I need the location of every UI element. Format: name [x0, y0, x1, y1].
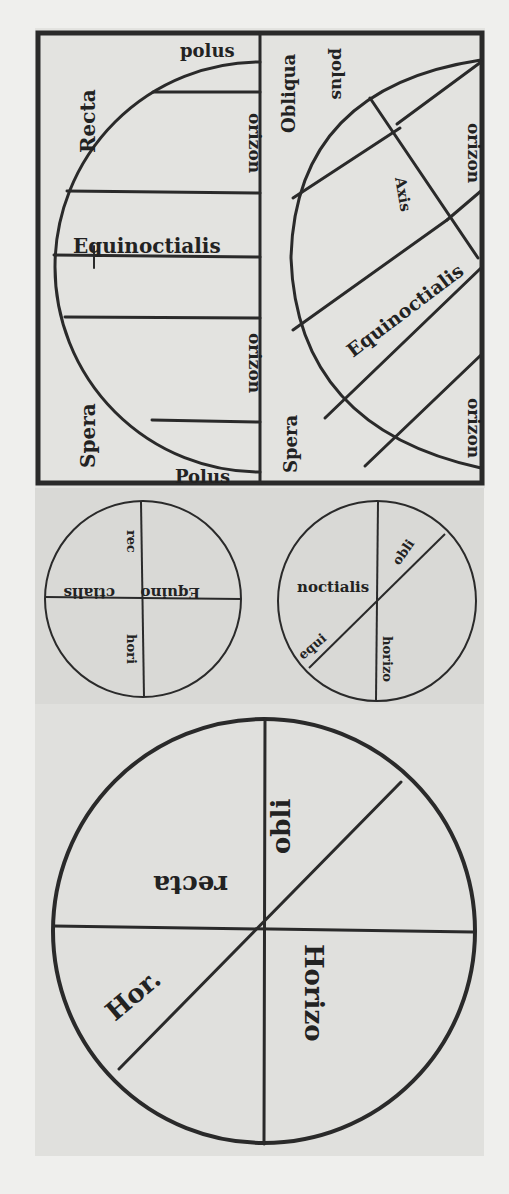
label-noctialis: noctialis	[297, 578, 369, 596]
label-horizo-large: Horizo	[299, 944, 329, 1042]
label-axis: Axis	[391, 175, 415, 213]
label-orizon-upper-left: orizon	[245, 113, 265, 173]
label-polus-bottom: Polus	[175, 466, 230, 487]
label-polus-top: polus	[180, 40, 235, 61]
label-orizon-lower-right: orizon	[464, 398, 484, 458]
sphere-diagrams-panel: Recta Spera polus Polus orizon orizon Eq…	[35, 28, 485, 488]
label-equino: Equino	[141, 584, 200, 602]
sphere-diagrams-drawing: Recta Spera polus Polus orizon orizon Eq…	[35, 28, 485, 488]
small-circles-drawing: Equino ctialis rec hori noctialis obli e…	[35, 488, 484, 704]
label-spera-left: Spera	[76, 403, 100, 468]
label-spera-right: Spera	[280, 414, 301, 473]
label-rec: rec	[124, 530, 139, 553]
label-hori: hori	[124, 634, 139, 664]
label-hor-large: Hor.	[100, 964, 167, 1027]
scanned-page: Recta Spera polus Polus orizon orizon Eq…	[0, 0, 509, 1194]
label-equinoctialis-left: Equinoctialis	[73, 234, 221, 258]
label-horizo-small: horizo	[380, 636, 395, 682]
label-recta-large: recta	[153, 870, 228, 900]
large-circle-drawing: recta obli Hor. Horizo	[35, 704, 484, 1156]
label-polus-right: polus	[328, 48, 348, 100]
small-circles-panel: Equino ctialis rec hori noctialis obli e…	[35, 488, 484, 704]
label-ctialis: ctialis	[64, 584, 115, 602]
label-equi: equi	[295, 630, 329, 662]
label-obliqua: Obliqua	[278, 53, 299, 133]
label-obli-large: obli	[266, 799, 296, 854]
label-recta: Recta	[76, 89, 100, 153]
large-circle-panel: recta obli Hor. Horizo	[35, 704, 484, 1156]
label-orizon-lower-left: orizon	[245, 333, 265, 393]
label-equinoctialis-right: Equinoctialis	[342, 259, 467, 361]
label-orizon-upper-right: orizon	[464, 123, 484, 183]
label-obli-small: obli	[389, 536, 417, 567]
